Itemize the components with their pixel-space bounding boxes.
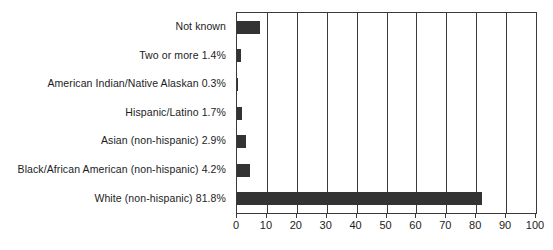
bar bbox=[237, 135, 246, 148]
x-tick-mark bbox=[475, 214, 476, 218]
category-label: Black/African American (non-hispanic) 4.… bbox=[18, 164, 226, 175]
plot-area bbox=[236, 12, 537, 214]
bar bbox=[237, 21, 260, 34]
category-label: Asian (non-hispanic) 2.9% bbox=[101, 135, 226, 146]
category-label-row: Not known bbox=[0, 12, 231, 41]
category-label-row: Two or more 1.4% bbox=[0, 41, 231, 70]
x-tick-mark bbox=[266, 214, 267, 218]
category-label: American Indian/Native Alaskan 0.3% bbox=[47, 78, 226, 89]
bar-chart: Not knownTwo or more 1.4%American Indian… bbox=[0, 0, 553, 250]
category-label-row: White (non-hispanic) 81.8% bbox=[0, 183, 231, 212]
x-tick-mark bbox=[356, 214, 357, 218]
category-label: Hispanic/Latino 1.7% bbox=[125, 107, 226, 118]
bar-row bbox=[237, 127, 536, 156]
x-tick-label: 20 bbox=[290, 219, 302, 231]
x-tick-label: 50 bbox=[379, 219, 391, 231]
bar bbox=[237, 78, 238, 91]
x-tick-label: 30 bbox=[320, 219, 332, 231]
x-tick-mark bbox=[326, 214, 327, 218]
bars-layer bbox=[237, 13, 536, 213]
bar-row bbox=[237, 184, 536, 213]
bar bbox=[237, 49, 241, 62]
x-tick-mark bbox=[386, 214, 387, 218]
x-tick-mark bbox=[236, 214, 237, 218]
x-tick-mark bbox=[445, 214, 446, 218]
category-label-row: American Indian/Native Alaskan 0.3% bbox=[0, 69, 231, 98]
x-tick-label: 90 bbox=[499, 219, 511, 231]
bar-row bbox=[237, 13, 536, 42]
x-tick-label: 80 bbox=[469, 219, 481, 231]
bar-row bbox=[237, 99, 536, 128]
x-tick-mark bbox=[415, 214, 416, 218]
x-tick-label: 0 bbox=[233, 219, 239, 231]
x-tick-label: 70 bbox=[439, 219, 451, 231]
x-axis: 0102030405060708090100 bbox=[236, 214, 535, 240]
x-tick-label: 40 bbox=[349, 219, 361, 231]
bar-row bbox=[237, 42, 536, 71]
bar bbox=[237, 107, 242, 120]
bar bbox=[237, 164, 250, 177]
category-label: Not known bbox=[175, 21, 226, 32]
x-tick-label: 100 bbox=[526, 219, 544, 231]
x-tick-label: 10 bbox=[260, 219, 272, 231]
bar bbox=[237, 192, 482, 205]
x-tick-mark bbox=[535, 214, 536, 218]
x-tick-mark bbox=[296, 214, 297, 218]
x-tick-mark bbox=[505, 214, 506, 218]
bar-row bbox=[237, 70, 536, 99]
category-label-row: Black/African American (non-hispanic) 4.… bbox=[0, 155, 231, 184]
category-label: Two or more 1.4% bbox=[139, 50, 226, 61]
category-label-row: Asian (non-hispanic) 2.9% bbox=[0, 126, 231, 155]
x-tick-label: 60 bbox=[409, 219, 421, 231]
bar-row bbox=[237, 156, 536, 185]
category-label: White (non-hispanic) 81.8% bbox=[94, 193, 226, 204]
category-axis-labels: Not knownTwo or more 1.4%American Indian… bbox=[0, 12, 231, 212]
category-label-row: Hispanic/Latino 1.7% bbox=[0, 98, 231, 127]
